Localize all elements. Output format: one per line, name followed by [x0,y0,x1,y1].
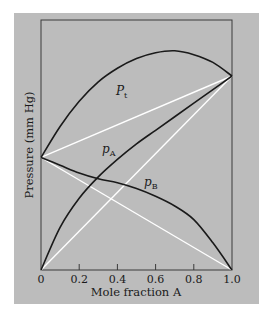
x-tick-label: 0.2 [70,273,88,286]
vapor-pressure-chart: 00.20.40.60.81.0 Mole fraction A Pressur… [0,0,271,313]
x-tick-label: 0.8 [185,273,203,286]
x-tick-label: 1.0 [223,273,241,286]
x-tick-label: 0 [38,273,45,286]
y-axis-label: Pressure (mm Hg) [22,91,36,198]
x-axis-label: Mole fraction A [91,285,182,299]
